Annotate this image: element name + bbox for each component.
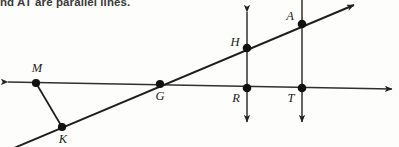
label-point-a: A [285, 9, 294, 23]
label-point-k: K [58, 132, 68, 146]
line-mgrt-horizontal [8, 82, 392, 89]
point-g [156, 80, 164, 88]
point-t [298, 84, 307, 93]
point-m [32, 79, 40, 87]
point-h [243, 44, 252, 53]
geometry-figure: M K G H R T A [0, 0, 399, 147]
geometry-problem-screenshot: nd AT are parallel lines. M K [0, 0, 399, 147]
point-r [243, 84, 252, 93]
point-k [58, 123, 66, 131]
label-point-g: G [155, 89, 164, 103]
point-a [298, 20, 307, 29]
label-point-t: T [288, 91, 296, 105]
segment-mk [36, 83, 62, 127]
label-point-m: M [31, 61, 43, 75]
label-point-r: R [231, 91, 240, 105]
label-point-h: H [229, 35, 240, 49]
